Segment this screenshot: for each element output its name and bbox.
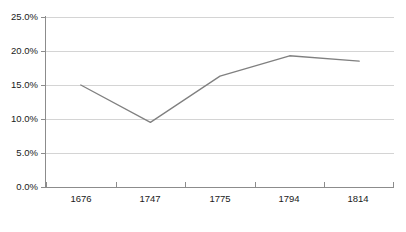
line-chart: 25.0% 20.0% 15.0% 10.0% 5.0% 0.0% 1676 1… <box>0 0 406 232</box>
series-line <box>81 56 359 123</box>
series-layer <box>0 0 406 232</box>
